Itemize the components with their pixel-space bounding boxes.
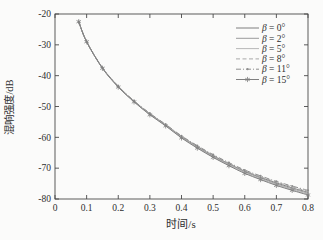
legend-item: β = 2° (236, 34, 286, 44)
reverberation-intensity-chart: 00.10.20.30.40.50.60.70.8-20-30-40-50-60… (0, 0, 323, 240)
asterisk-marker (76, 19, 81, 24)
legend-item: β = 8° (236, 54, 286, 64)
dot-marker (259, 175, 261, 177)
x-tick-label: 0.4 (176, 203, 188, 213)
legend-item: β = 11° (236, 64, 290, 74)
asterisk-marker (84, 39, 89, 44)
legend-item: β = 0° (236, 23, 286, 33)
x-tick-label: 0.8 (302, 203, 314, 213)
y-tick-label: -40 (38, 71, 51, 81)
legend: β = 0°β = 2°β = 5°β = 8°β = 11°β = 15° (236, 23, 290, 84)
x-tick-label: 0.2 (112, 203, 124, 213)
x-axis-label: 时间/s (166, 218, 195, 230)
dot-marker (244, 169, 246, 171)
y-tick-label: -70 (38, 163, 51, 173)
legend-item: β = 5° (236, 44, 286, 54)
legend-label: β = 11° (261, 64, 290, 74)
x-tick-label: 0.3 (144, 203, 156, 213)
y-tick-label: -60 (38, 133, 51, 143)
dot-marker (291, 185, 293, 187)
y-tick-label: -50 (38, 102, 51, 112)
x-tick-label: 0.1 (81, 203, 93, 213)
legend-label: β = 15° (261, 75, 290, 85)
legend-item: β = 15° (236, 75, 290, 85)
line-chart-canvas: 00.10.20.30.40.50.60.70.8-20-30-40-50-60… (0, 0, 323, 240)
legend-label: β = 2° (261, 34, 286, 44)
y-axis-label: 混响强度/dB (3, 79, 15, 134)
dot-marker (275, 180, 277, 182)
legend-label: β = 5° (261, 44, 286, 54)
y-tick-label: -20 (38, 9, 51, 19)
x-tick-label: 0.5 (207, 203, 219, 213)
legend-label: β = 8° (261, 54, 286, 64)
x-tick-label: 0.6 (239, 203, 251, 213)
y-tick-label: -80 (38, 194, 51, 204)
x-tick-label: 0 (53, 203, 58, 213)
x-tick-label: 0.7 (270, 203, 282, 213)
y-tick-label: -30 (38, 40, 51, 50)
legend-label: β = 0° (261, 23, 286, 33)
dot-marker (307, 189, 309, 191)
legend-dot-marker (246, 68, 248, 70)
